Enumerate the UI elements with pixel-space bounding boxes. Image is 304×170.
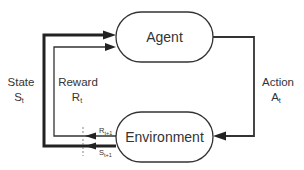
- state-label-group: State St: [8, 76, 35, 104]
- agent-label: Agent: [146, 29, 183, 45]
- agent-node: Agent: [116, 12, 213, 62]
- reward-symbol: Rt: [72, 91, 82, 104]
- reward-edge: [54, 43, 116, 136]
- rl-loop-diagram: Agent Environment State St Reward Rt Act…: [0, 0, 304, 170]
- environment-label: Environment: [125, 129, 204, 145]
- next-state-arrowhead-icon: [85, 143, 96, 150]
- state-arrowhead-icon: [103, 31, 116, 40]
- action-edge: [213, 37, 254, 141]
- reward-label-group: Reward Rt: [58, 76, 98, 104]
- environment-node: Environment: [116, 112, 213, 162]
- state-label: State: [8, 76, 35, 88]
- action-arrowhead-icon: [213, 132, 226, 141]
- reward-label: Reward: [58, 76, 98, 88]
- next-state-symbol: St+1: [99, 148, 112, 158]
- state-symbol: St: [14, 91, 24, 104]
- next-reward-symbol: Rt+1: [99, 126, 112, 136]
- next-reward-arrowhead-icon: [85, 133, 96, 140]
- action-symbol: At: [271, 91, 281, 104]
- action-label: Action: [262, 76, 294, 88]
- action-label-group: Action At: [262, 76, 294, 104]
- reward-arrowhead-icon: [105, 43, 116, 51]
